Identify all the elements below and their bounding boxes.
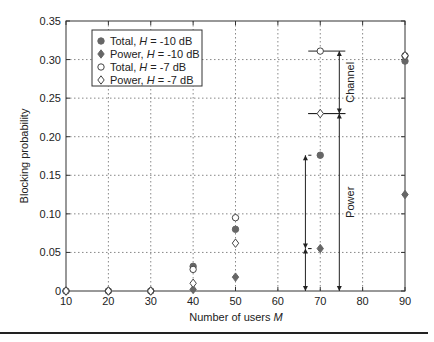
- data-point: [317, 152, 323, 158]
- data-point: [317, 109, 323, 117]
- data-point: [190, 266, 196, 272]
- x-tick-label: 60: [272, 295, 284, 307]
- legend: Total, H = -10 dBPower, H = -10 dBTotal,…: [92, 30, 202, 86]
- data-point: [232, 239, 238, 247]
- data-point: [317, 244, 323, 252]
- y-tick-label: 0.25: [40, 92, 61, 104]
- x-axis-label: Number of users M: [189, 311, 283, 323]
- data-point: [232, 215, 238, 221]
- y-tick-label: 0.30: [40, 54, 61, 66]
- x-tick-label: 20: [102, 295, 114, 307]
- legend-entry: Total, H = -7 dB: [110, 61, 186, 73]
- x-tick-label: 40: [187, 295, 199, 307]
- data-point: [232, 273, 238, 281]
- y-tick-label: 0.35: [40, 15, 61, 27]
- x-tick-label: 30: [145, 295, 157, 307]
- data-point: [232, 226, 238, 232]
- data-point: [190, 279, 196, 287]
- y-tick-label: 0.05: [40, 246, 61, 258]
- y-tick-label: 0.15: [40, 169, 61, 181]
- annotation-label: Power: [344, 186, 356, 218]
- data-point: [317, 48, 323, 54]
- y-tick-label: 0.10: [40, 208, 61, 220]
- x-tick-label: 90: [399, 295, 411, 307]
- y-axis-label: Blocking probability: [18, 108, 30, 203]
- legend-marker-icon: [98, 64, 104, 70]
- blocking-probability-chart: 102030405060708090 00.050.100.150.200.25…: [0, 0, 434, 342]
- x-tick-label: 10: [60, 295, 72, 307]
- y-tick-label: 0.20: [40, 131, 61, 143]
- annotation-label: Channel: [344, 62, 356, 103]
- legend-entry: Power, H = -7 dB: [110, 74, 193, 86]
- annotations: ChannelPower: [303, 51, 356, 291]
- legend-entry: Power, H = -10 dB: [110, 48, 200, 60]
- x-tick-label: 50: [229, 295, 241, 307]
- legend-entry: Total, H = -10 dB: [110, 35, 192, 47]
- data-point: [402, 190, 408, 198]
- x-tick-label: 70: [314, 295, 326, 307]
- x-tick-label: 80: [357, 295, 369, 307]
- y-tick-label: 0: [55, 285, 61, 297]
- legend-marker-icon: [98, 38, 104, 44]
